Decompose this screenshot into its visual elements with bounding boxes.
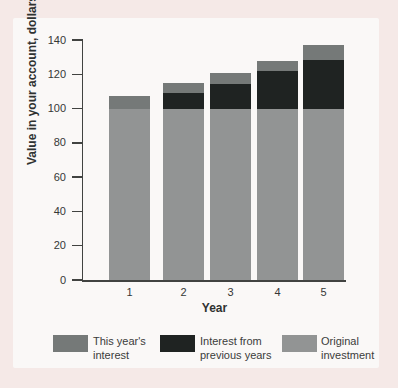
legend-swatch-this-years-interest <box>53 335 88 352</box>
chart-panel: Value in your account, dollars 020406080… <box>13 18 379 368</box>
legend-label-line: This year's <box>93 335 146 347</box>
legend-label-line: previous years <box>200 349 272 361</box>
legend-label-line: Original <box>321 335 359 347</box>
legend-label-line: interest <box>93 349 129 361</box>
legend-label-line: Interest from <box>200 335 262 347</box>
legend-swatch-interest-previous-years <box>160 335 195 352</box>
chart-legend: This year's interest Interest from previ… <box>13 18 379 368</box>
legend-label-line: investment <box>321 349 374 361</box>
legend-swatch-original-investment <box>282 335 317 352</box>
